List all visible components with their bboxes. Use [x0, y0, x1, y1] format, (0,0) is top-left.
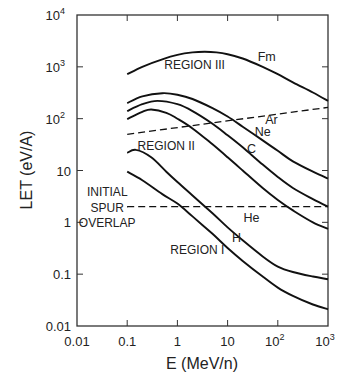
- series-h: [127, 172, 328, 310]
- x-tick-label: 1: [174, 334, 181, 349]
- annotations: REGION IIIREGION IIREGION IINITIALSPUROV…: [79, 50, 278, 257]
- annotation-region-ii: REGION II: [138, 139, 195, 153]
- annotation-fm: Fm: [258, 50, 276, 64]
- series-lines: [127, 52, 328, 310]
- y-tick-label: 103: [46, 58, 65, 75]
- x-axis-label: E (MeV/n): [166, 355, 238, 372]
- annotation-h: H: [232, 231, 241, 245]
- annotation-he: He: [244, 211, 260, 225]
- x-tick-label: 102: [265, 332, 284, 349]
- x-tick-label: 0.1: [118, 334, 136, 349]
- annotation-overlap: OVERLAP: [79, 216, 136, 230]
- y-tick-label: 0.01: [46, 319, 71, 334]
- annotation-c: C: [247, 142, 256, 156]
- y-tick-label: 10: [57, 164, 71, 179]
- annotation-initial: INITIAL: [87, 185, 128, 199]
- series-c: [127, 109, 328, 228]
- y-tick-label: 102: [46, 110, 65, 127]
- x-tick-label: 103: [315, 332, 334, 349]
- annotation-ne: Ne: [255, 125, 271, 139]
- x-tick-label: 10: [220, 334, 234, 349]
- let-vs-energy-chart: 0.010.11101021030.010.1110102103104 REGI…: [0, 0, 347, 384]
- x-tick-label: 0.01: [64, 334, 89, 349]
- y-tick-label: 0.1: [53, 267, 71, 282]
- y-axis-label: LET (eV/A): [18, 131, 35, 210]
- y-tick-label: 104: [46, 6, 65, 23]
- annotation-region-iii: REGION III: [164, 58, 225, 72]
- series-region-ii-iii-boundary: [127, 107, 328, 134]
- annotation-region-i: REGION I: [170, 243, 224, 257]
- y-tick-label: 1: [64, 215, 71, 230]
- annotation-spur: SPUR: [91, 201, 125, 215]
